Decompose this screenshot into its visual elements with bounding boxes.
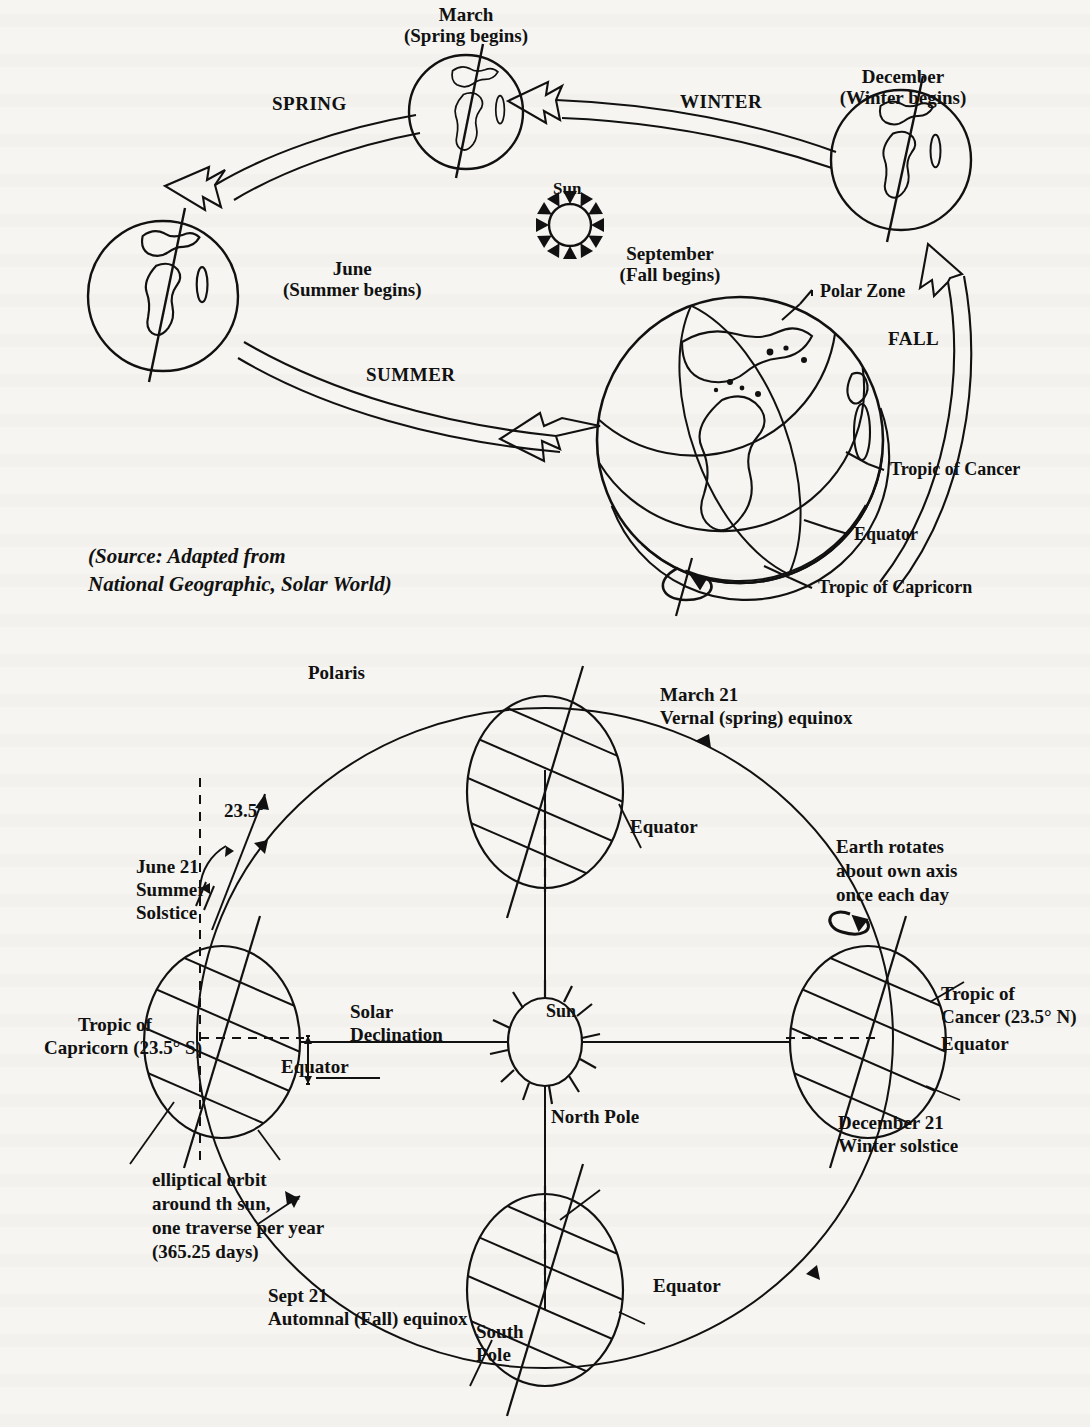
note-earth-rotation: Earth rotatesabout own axisonce each day	[836, 835, 957, 907]
sun-graphic-top	[536, 191, 604, 259]
sun-label-bottom: Sun	[546, 1001, 576, 1021]
label-june-21: June 21SummerSolstice	[136, 855, 206, 925]
label-march: March(Spring begins)	[404, 4, 528, 47]
orbit-arrow-winter	[508, 82, 836, 168]
label-september: September(Fall begins)	[620, 243, 721, 286]
orbit-arrow-summer	[238, 342, 600, 461]
label-december-21: December 21Winter solstice	[838, 1111, 958, 1157]
season-label-summer: SUMMER	[366, 364, 456, 385]
label-equator-sept: Equator	[653, 1275, 721, 1296]
season-label-spring: SPRING	[272, 93, 347, 114]
label-polaris: Polaris	[308, 662, 365, 683]
callout-polar-zone: Polar Zone	[820, 281, 905, 301]
label-equator-june: Equator	[281, 1056, 349, 1077]
label-tropic-of-cancer-december: Tropic ofCancer (23.5° N)	[941, 982, 1076, 1028]
label-solar-declination: SolarDeclination	[350, 1000, 443, 1046]
label-south-pole: SouthPole	[476, 1320, 524, 1366]
globe-june	[88, 208, 238, 382]
label-june: June(Summer begins)	[283, 258, 421, 301]
callout-equator-top: Equator	[854, 524, 918, 544]
globe-march	[409, 44, 523, 178]
label-north-pole: North Pole	[551, 1106, 639, 1127]
orbit-arrow-spring	[165, 115, 420, 210]
figure-canvas: March(Spring begins) June(Summer begins)…	[0, 0, 1090, 1427]
label-tropic-of-capricorn-june: Tropic ofCapricorn (23.5° S)	[44, 1013, 202, 1059]
season-label-winter: WINTER	[680, 91, 762, 112]
callout-tropic-of-capricorn: Tropic of Capricorn	[818, 577, 972, 597]
label-equator-march: Equator	[630, 816, 698, 837]
label-december: December(Winter begins)	[840, 66, 967, 109]
label-tilt-angle: 23.5°	[224, 800, 265, 821]
label-march-21: March 21Vernal (spring) equinox	[660, 683, 853, 729]
label-sept-21: Sept 21Automnal (Fall) equinox	[268, 1284, 468, 1330]
label-equator-december: Equator	[941, 1033, 1009, 1054]
source-note: (Source: Adapted fromNational Geographic…	[88, 542, 392, 599]
callout-tropic-of-cancer: Tropic of Cancer	[890, 459, 1020, 479]
note-elliptical-orbit: elliptical orbitaround th sun,one traver…	[152, 1168, 324, 1264]
sun-label-top: Sun	[553, 179, 581, 198]
season-label-fall: FALL	[888, 328, 939, 349]
